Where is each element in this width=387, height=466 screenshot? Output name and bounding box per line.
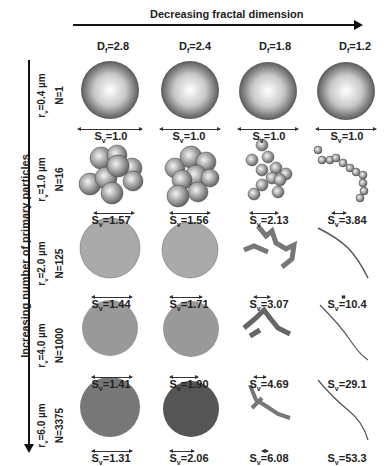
cell-r4-c2: Sv=1.90: [150, 308, 228, 392]
cell-r4-c4: Sv=29.1: [308, 308, 386, 392]
cell-r3-c1: Sv=1.44: [72, 228, 150, 312]
cell-r2-c1: Sv=1.57: [72, 144, 150, 228]
cell-r1-c2: Sv=1.0: [150, 60, 228, 144]
cell-r3-c4: Sv=10.4: [308, 228, 386, 312]
cell-r1-c3: Sv=1.0: [230, 60, 308, 144]
cell-r4-c3: Sv=4.69: [230, 308, 308, 392]
cell-r2-c4: Sv=3.84: [308, 144, 386, 228]
cell-r5-c2: Sv=2.06: [150, 382, 228, 466]
cell-r1-c1: Sv=1.0: [72, 60, 150, 144]
cell-r2-c2: Sv=1.56: [150, 144, 228, 228]
cell-r3-c3: Sv=3.07: [230, 228, 308, 312]
cell-r4-c1: Sv=1.41: [72, 308, 150, 392]
cell-r5-c4: Sv=53.3: [308, 382, 386, 466]
cell-r3-c2: Sv=1.71: [150, 228, 228, 312]
cell-r2-c3: Sv=2.13: [230, 144, 308, 228]
cell-r5-c1: Sv=1.31: [72, 382, 150, 466]
cell-r1-c4: Sv=1.0: [308, 60, 386, 144]
cell-r5-c3: Sv=6.08: [230, 382, 308, 466]
